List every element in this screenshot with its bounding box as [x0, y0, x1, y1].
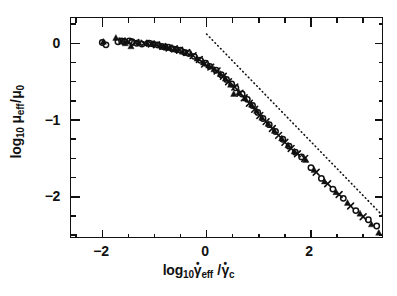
x-tick-label-2: 2 — [305, 243, 313, 259]
y-axis-title: log10 μeff/μ0 — [8, 22, 26, 222]
y-axis-title-prefix: log — [8, 138, 24, 158]
x-tick-label-minus2: −2 — [93, 243, 108, 259]
x-tick-label-0: 0 — [201, 243, 209, 259]
x-axis-title-prefix-sub: 10 — [183, 269, 194, 280]
data-point — [348, 203, 354, 209]
x-axis-title-prefix: log — [163, 262, 183, 278]
plot-frame — [70, 17, 383, 238]
x-axis-title-separator: / — [213, 262, 221, 278]
gamma-dot-accent-2-icon: • — [224, 259, 227, 269]
x-axis-title-symbol-1-sub: eff — [201, 269, 213, 280]
y-axis-title-symbol-1-sub: eff — [15, 104, 26, 116]
y-tick-label-0: 0 — [34, 35, 60, 51]
y-axis-title-prefix-sub: 10 — [15, 127, 26, 138]
data-point — [276, 133, 282, 139]
data-point — [231, 91, 237, 97]
figure-container: log10 μeff/μ0 log10γ•eff /γ•c 0 −1 −2 −2… — [0, 0, 397, 296]
plot-canvas — [71, 18, 382, 237]
data-point — [376, 229, 382, 235]
y-axis-title-symbol-2: μ — [8, 90, 24, 98]
x-axis-title: log10γ•eff /γ•c — [0, 262, 397, 280]
y-tick-label-minus2: −2 — [34, 188, 60, 204]
data-point — [100, 38, 106, 44]
data-point — [113, 35, 119, 41]
series-filled-triangle — [100, 35, 382, 236]
x-axis-title-symbol-2: γ• — [221, 262, 229, 278]
y-tick-label-minus1: −1 — [34, 112, 60, 128]
y-axis-title-symbol-1: μ — [8, 115, 24, 123]
y-axis-title-symbol-2-sub: 0 — [15, 85, 26, 90]
x-axis-title-symbol-1: γ• — [194, 262, 202, 278]
series-cross — [119, 38, 366, 220]
x-axis-title-symbol-2-sub: c — [229, 269, 234, 280]
y-axis-title-separator: / — [8, 99, 24, 104]
data-point — [374, 223, 379, 228]
data-point-layer — [71, 18, 382, 237]
data-point — [360, 214, 366, 220]
gamma-dot-accent-1-icon: • — [196, 259, 199, 269]
series-open-circle — [100, 38, 380, 228]
